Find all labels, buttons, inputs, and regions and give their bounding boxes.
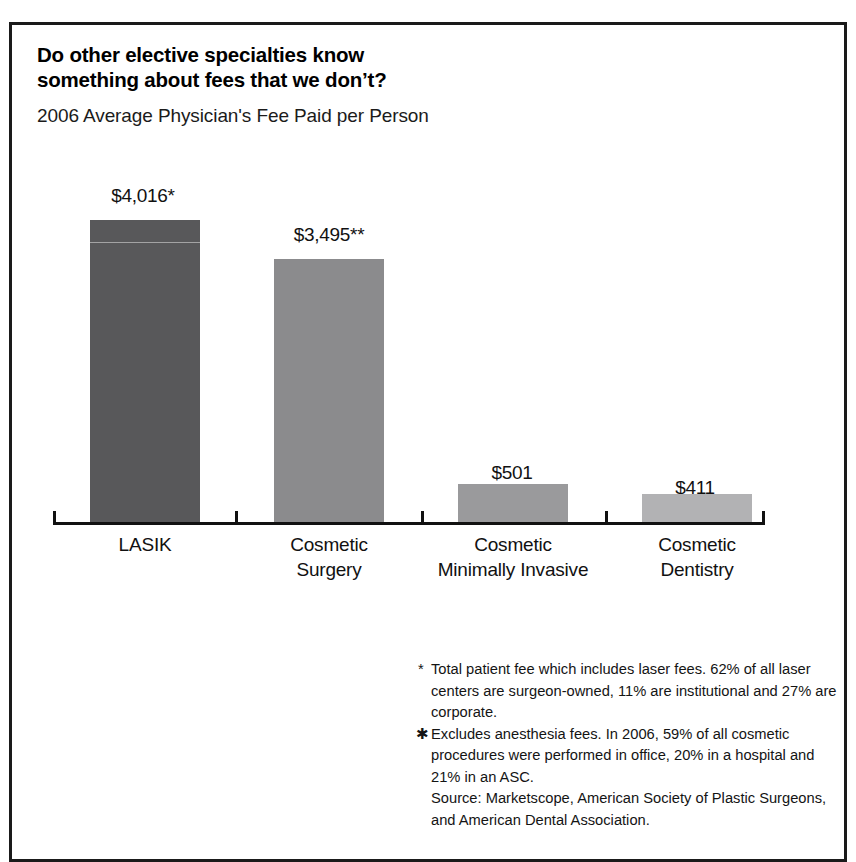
category-label-line-2: Dentistry: [607, 557, 787, 582]
x-axis-tick-3: [605, 511, 608, 523]
category-label-line-1: Cosmetic: [423, 532, 603, 557]
category-label-line-1: Cosmetic: [607, 532, 787, 557]
footnote-2-marker: ✱: [416, 724, 429, 746]
category-label-line-2: Minimally Invasive: [423, 557, 603, 582]
bar-value-label-lasik: $4,016*: [53, 185, 233, 207]
category-label-cosmetic-dentistry: Cosmetic Dentistry: [607, 532, 787, 582]
footnote-2-text: Excludes anesthesia fees. In 2006, 59% o…: [431, 726, 814, 785]
footnote-1: * Total patient fee which includes laser…: [418, 659, 838, 724]
category-label-lasik: LASIK: [55, 532, 235, 557]
bar-cosmetic-dentistry: [642, 494, 752, 522]
bar-highlight-line: [90, 242, 200, 243]
x-axis-line: [53, 522, 765, 525]
category-label-line-2: Surgery: [239, 557, 419, 582]
category-label-line-1: LASIK: [55, 532, 235, 557]
footnote-source-text: Source: Marketscope, American Society of…: [431, 790, 826, 828]
bar-chart-plot-area: $4,016* $3,495** $501 $411 LASIK Cosmeti…: [12, 25, 850, 585]
bar-lasik: [90, 220, 200, 522]
bar-cosmetic-surgery: [274, 259, 384, 522]
footnote-2: ✱ Excludes anesthesia fees. In 2006, 59%…: [418, 724, 838, 789]
x-axis-tick-end: [762, 511, 765, 523]
bar-cosmetic-minimally-invasive: [458, 484, 568, 522]
footnote-1-marker: *: [418, 659, 424, 681]
bar-value-label-cosmetic-minimally-invasive: $501: [417, 462, 607, 484]
category-label-line-1: Cosmetic: [239, 532, 419, 557]
x-axis-tick-1: [235, 511, 238, 523]
chart-frame: Do other elective specialties know somet…: [9, 22, 847, 862]
x-axis-tick-2: [421, 511, 424, 523]
category-label-cosmetic-surgery: Cosmetic Surgery: [239, 532, 419, 582]
footnote-1-text: Total patient fee which includes laser f…: [431, 661, 837, 720]
footnote-source: Source: Marketscope, American Society of…: [418, 788, 838, 831]
x-axis-tick-start: [53, 511, 56, 523]
bar-value-label-cosmetic-surgery: $3,495**: [234, 224, 424, 246]
footnotes-block: * Total patient fee which includes laser…: [418, 659, 838, 831]
category-label-cosmetic-minimally-invasive: Cosmetic Minimally Invasive: [423, 532, 603, 582]
